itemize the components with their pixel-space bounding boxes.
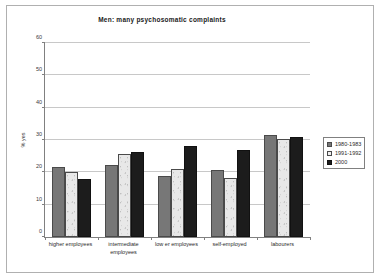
bar[interactable]	[184, 146, 197, 237]
y-axis-tick-label: 20	[36, 163, 42, 169]
bar[interactable]	[131, 152, 144, 237]
bar[interactable]	[264, 135, 277, 237]
x-axis-label: low er employees	[150, 240, 203, 256]
bar[interactable]	[105, 165, 118, 237]
bar[interactable]	[211, 170, 224, 237]
y-axis-title: % yes	[20, 133, 26, 148]
y-axis-tick-label: 30	[36, 131, 42, 137]
bar-group	[257, 43, 310, 237]
chart-legend: 1980-19831991-19922000	[323, 137, 365, 169]
legend-item[interactable]: 2000	[327, 159, 361, 165]
y-axis-tick-label: 10	[36, 196, 42, 202]
bar[interactable]	[171, 169, 184, 237]
legend-swatch-icon	[327, 142, 332, 147]
bar-group	[204, 43, 257, 237]
bar[interactable]	[52, 167, 65, 237]
x-axis-label: intermediate employees	[97, 240, 150, 256]
y-axis-tick-label: 40	[36, 99, 42, 105]
y-axis-tick-label: 0	[39, 228, 42, 234]
chart-title: Men: many psychosomatic complaints	[7, 16, 317, 23]
y-axis-tick-label: 50	[36, 66, 42, 72]
plot-area: 0102030405060 % yes	[44, 43, 310, 238]
chart-frame: Men: many psychosomatic complaints 01020…	[6, 5, 374, 273]
x-axis-label: labourers	[256, 240, 309, 256]
bar-group	[151, 43, 204, 237]
y-axis-tick-label: 60	[36, 34, 42, 40]
bar-group	[98, 43, 151, 237]
x-axis-labels: higher employeesintermediate employeeslo…	[44, 240, 309, 256]
bar[interactable]	[78, 179, 91, 237]
bars-layer	[45, 43, 310, 237]
bar[interactable]	[277, 139, 290, 237]
bar[interactable]	[65, 172, 78, 237]
x-axis-tick-mark	[310, 237, 311, 240]
bar[interactable]	[118, 154, 131, 237]
bar[interactable]	[237, 150, 250, 237]
x-axis-label: self-employed	[203, 240, 256, 256]
bar[interactable]	[290, 137, 303, 237]
legend-label: 2000	[335, 159, 347, 165]
x-axis-label: higher employees	[44, 240, 97, 256]
legend-swatch-icon	[327, 160, 332, 165]
legend-item[interactable]: 1980-1983	[327, 141, 361, 147]
bar[interactable]	[158, 176, 171, 237]
legend-label: 1980-1983	[335, 141, 361, 147]
bar[interactable]	[224, 178, 237, 237]
bar-group	[45, 43, 98, 237]
legend-label: 1991-1992	[335, 150, 361, 156]
legend-item[interactable]: 1991-1992	[327, 150, 361, 156]
legend-swatch-icon	[327, 151, 332, 156]
